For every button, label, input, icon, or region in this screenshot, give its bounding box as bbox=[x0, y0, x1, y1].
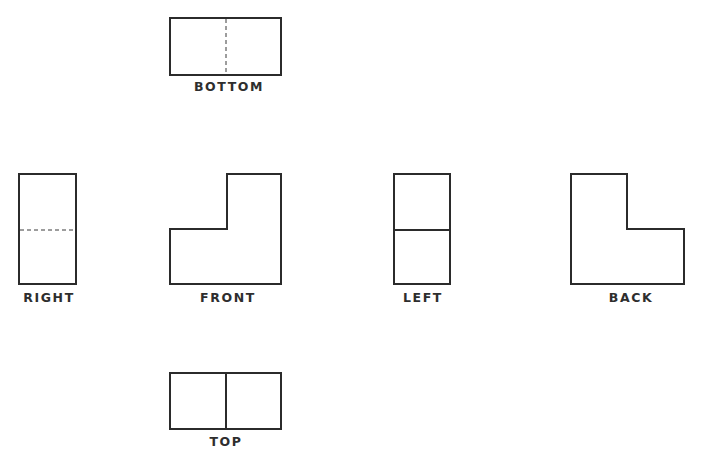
top-view bbox=[170, 373, 281, 429]
left-view bbox=[394, 174, 450, 284]
top-view-label: TOP bbox=[209, 436, 242, 449]
views-drawing bbox=[0, 0, 706, 466]
right-view-outline bbox=[19, 174, 76, 284]
front-view-label: FRONT bbox=[200, 292, 256, 305]
orthographic-views-diagram: BOTTOM RIGHT FRONT LEFT BACK TOP bbox=[0, 0, 706, 466]
front-view bbox=[170, 174, 281, 284]
left-view-label: LEFT bbox=[403, 292, 443, 305]
back-view-outline bbox=[571, 174, 684, 284]
front-view-outline bbox=[170, 174, 281, 284]
right-view-label: RIGHT bbox=[23, 292, 75, 305]
right-view bbox=[19, 174, 76, 284]
bottom-view bbox=[170, 18, 281, 75]
bottom-view-label: BOTTOM bbox=[194, 81, 264, 94]
back-view bbox=[571, 174, 684, 284]
back-view-label: BACK bbox=[609, 292, 653, 305]
